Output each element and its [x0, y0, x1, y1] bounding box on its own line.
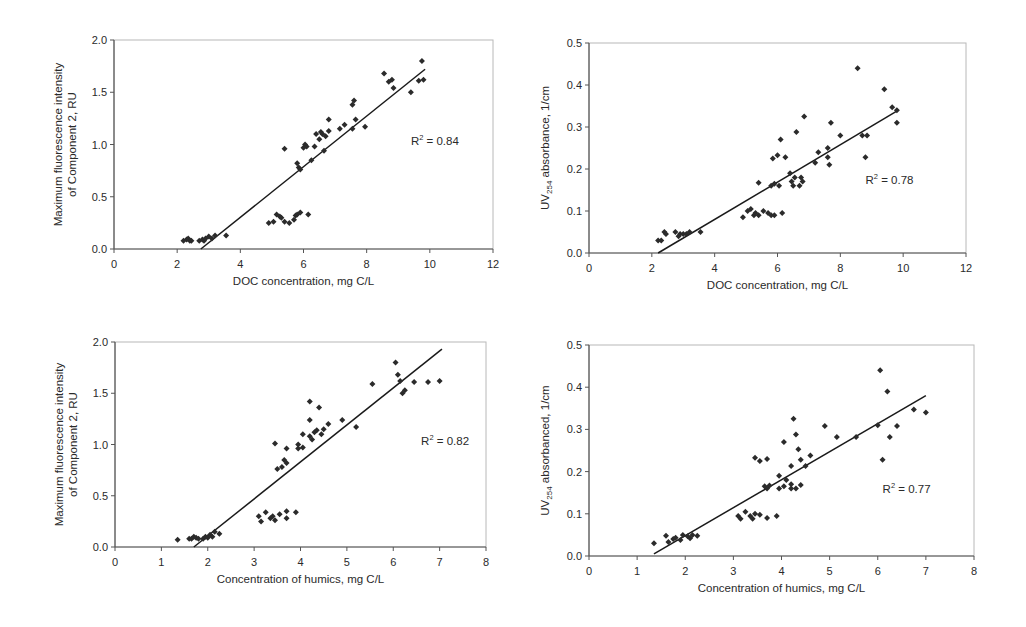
data-point-marker: [295, 442, 301, 448]
x-tick-label: 5: [827, 565, 833, 577]
data-point-marker: [391, 85, 397, 91]
r-squared-annotation: R2 = 0.77: [883, 481, 931, 495]
x-tick-label: 4: [237, 258, 243, 270]
data-point-marker: [421, 77, 427, 83]
y-tick-label: 0.3: [567, 121, 582, 133]
y-tick-label: 0.5: [567, 37, 582, 49]
x-tick-label: 4: [712, 262, 718, 274]
data-point-marker: [771, 212, 777, 218]
data-point-marker: [339, 417, 345, 423]
y-axis-title-suffix: absorbance, 1/cm: [539, 86, 551, 181]
data-point-marker: [326, 128, 332, 134]
data-point-marker: [307, 417, 313, 423]
data-point-marker: [284, 508, 290, 514]
data-point-marker: [282, 146, 288, 152]
data-point-marker: [788, 481, 794, 487]
x-tick-label: 0: [112, 556, 118, 568]
x-axis-title: DOC concentration, mg C/L: [233, 275, 375, 287]
r2-label: R: [411, 135, 419, 147]
y-axis-title-subscript: 254: [545, 180, 554, 194]
data-point-marker: [307, 398, 313, 404]
data-point-marker: [807, 453, 813, 459]
r2-value: = 0.77: [895, 483, 931, 495]
data-point-marker: [408, 89, 414, 95]
data-points: [655, 65, 900, 243]
data-point-marker: [300, 445, 306, 451]
data-point-marker: [923, 410, 929, 416]
data-point-marker: [321, 426, 327, 432]
y-tick-label: 0.5: [567, 339, 582, 351]
y-tick-label: 2.0: [93, 336, 108, 348]
data-point-marker: [316, 136, 322, 142]
trendline: [658, 110, 898, 253]
x-tick-label: 10: [897, 262, 909, 274]
r-squared-annotation: R2 = 0.82: [421, 433, 469, 447]
y-tick-label: 2.0: [92, 34, 107, 46]
y-axis-title: UV254 absorbance, 1/cm: [539, 86, 554, 210]
x-tick-label: 7: [437, 556, 443, 568]
data-point-marker: [658, 237, 664, 243]
data-point-marker: [337, 126, 343, 132]
x-tick-label: 10: [424, 258, 436, 270]
data-point-marker: [834, 434, 840, 440]
data-point-marker: [680, 532, 686, 538]
data-point-marker: [770, 156, 776, 162]
trendline: [654, 396, 926, 554]
y-axis-title-prefix: UV: [539, 194, 551, 210]
data-point-marker: [911, 407, 917, 413]
x-tick-label: 3: [251, 556, 257, 568]
x-tick-label: 8: [971, 565, 977, 577]
data-point-marker: [788, 463, 794, 469]
y-tick-label: 0.1: [567, 508, 582, 520]
x-tick-label: 6: [390, 556, 396, 568]
y-axis-title-line: of Component 2, RU: [67, 392, 79, 497]
data-point-marker: [864, 132, 870, 138]
x-tick-label: 8: [837, 262, 843, 274]
data-point-marker: [395, 372, 401, 378]
data-point-marker: [793, 431, 799, 437]
data-point-marker: [776, 473, 782, 479]
r-squared-annotation: R2 = 0.78: [865, 172, 913, 186]
x-tick-label: 1: [158, 556, 164, 568]
data-point-marker: [757, 512, 763, 518]
data-point-marker: [416, 78, 422, 84]
data-point-marker: [815, 149, 821, 155]
figure-canvas: 0.00.51.01.52.0024681012DOC concentratio…: [0, 0, 1026, 627]
data-point-marker: [300, 431, 306, 437]
y-tick-label: 1.5: [93, 387, 108, 399]
x-tick-label: 0: [111, 258, 117, 270]
x-tick-label: 7: [923, 565, 929, 577]
y-tick-label: 0.4: [567, 381, 582, 393]
plot-area-frame: [589, 43, 966, 253]
data-point-marker: [825, 154, 831, 160]
y-tick-label: 0.5: [92, 191, 107, 203]
data-point-marker: [419, 58, 425, 64]
data-point-marker: [752, 455, 758, 461]
data-point-marker: [277, 511, 283, 517]
r2-label: R: [883, 483, 891, 495]
data-point-marker: [316, 405, 322, 411]
data-point-marker: [756, 180, 762, 186]
data-point-marker: [293, 509, 299, 515]
x-tick-label: 4: [297, 556, 303, 568]
data-point-marker: [325, 421, 331, 427]
data-point-marker: [781, 439, 787, 445]
y-tick-label: 0.5: [93, 490, 108, 502]
data-point-marker: [887, 434, 893, 440]
x-tick-label: 8: [483, 556, 489, 568]
y-axis-title-line: Maximum fluorescence intensity: [52, 62, 64, 226]
data-point-marker: [411, 379, 417, 385]
data-point-marker: [822, 423, 828, 429]
chart-uv254-vs-humics: 0.00.10.20.30.40.5012345678Concentration…: [539, 339, 977, 594]
data-point-marker: [425, 379, 431, 385]
y-tick-label: 0.0: [92, 243, 107, 255]
x-tick-label: 12: [960, 262, 972, 274]
data-point-marker: [764, 515, 770, 521]
y-tick-label: 0.2: [567, 163, 582, 175]
x-tick-label: 4: [778, 565, 784, 577]
data-points: [180, 58, 426, 244]
x-tick-label: 1: [634, 565, 640, 577]
data-point-marker: [889, 104, 895, 110]
data-points: [651, 367, 929, 546]
chart-fluorescence-vs-humics: 0.00.51.01.52.0012345678Concentration of…: [53, 336, 489, 585]
